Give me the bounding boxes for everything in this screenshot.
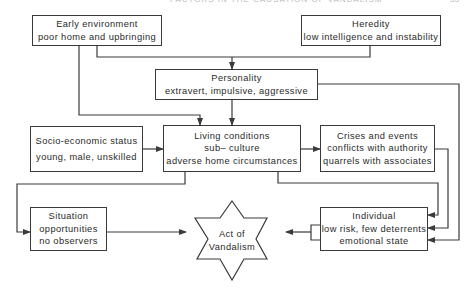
node-personality: Personality extravert, impulsive, aggres… [155, 69, 318, 100]
node-line: opportunities [39, 223, 97, 236]
node-socio-economic: Socio-economic status young, male, unski… [30, 126, 143, 172]
node-heredity: Heredity low intelligence and instabilit… [301, 15, 441, 46]
node-title: Living conditions [194, 130, 270, 143]
node-title: Act of [202, 228, 262, 241]
edge-early-env-to-personality [97, 46, 370, 57]
node-title: Crises and events [337, 130, 418, 143]
node-line: quarrels with associates [323, 155, 432, 168]
node-line: no observers [39, 235, 98, 248]
node-title: Personality [211, 72, 261, 85]
node-title: Heredity [352, 18, 390, 31]
node-line: adverse home circumstances [166, 155, 297, 168]
node-line: sub– culture [204, 142, 259, 155]
node-line: conflicts with authority [327, 142, 428, 155]
node-act-of-vandalism: Act of Vandalism [202, 228, 262, 254]
individual-bracket [311, 225, 320, 240]
node-line: poor home and upbringing [38, 31, 156, 44]
node-line: extravert, impulsive, aggressive [165, 85, 308, 98]
node-living-conditions: Living conditions sub– culture adverse h… [163, 125, 301, 172]
node-title: Individual [352, 210, 395, 223]
node-early-environment: Early environment poor home and upbringi… [32, 15, 162, 46]
node-line: Vandalism [202, 241, 262, 254]
node-line: emotional state [339, 235, 408, 248]
node-title: Early environment [56, 18, 138, 31]
node-title: Socio-economic status [36, 133, 138, 149]
node-individual: Individual low risk, few deterrents emot… [320, 207, 428, 251]
node-crises-events: Crises and events conflicts with authori… [320, 125, 435, 172]
node-title: Situation [49, 210, 89, 223]
node-line: young, male, unskilled [36, 149, 137, 165]
node-line: low intelligence and instability [304, 31, 439, 44]
node-line: low risk, few deterrents [322, 223, 427, 236]
node-situation: Situation opportunities no observers [30, 207, 107, 251]
